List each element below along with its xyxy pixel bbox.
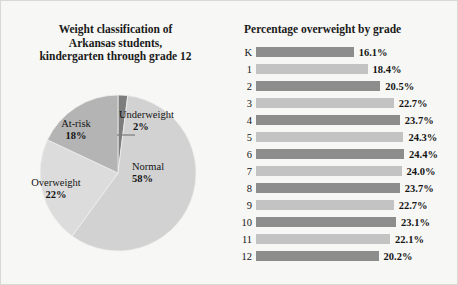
bar-fill bbox=[256, 234, 390, 244]
bar-fill bbox=[256, 166, 402, 176]
pie-chart-panel: Weight classification of Arkansas studen… bbox=[1, 1, 230, 285]
pie-label-underweight-name: Underweight bbox=[119, 109, 174, 121]
bar-fill bbox=[256, 200, 394, 210]
bar-value-label: 24.3% bbox=[408, 131, 437, 144]
bar-category-label: 5 bbox=[230, 131, 252, 144]
bar-row: 1023.1% bbox=[230, 215, 458, 231]
bar-value-label: 23.1% bbox=[401, 216, 430, 229]
bar-chart-panel: Percentage overweight by grade K16.1%118… bbox=[230, 1, 458, 285]
bar-category-label: 6 bbox=[230, 148, 252, 161]
bar-value-label: 16.1% bbox=[359, 46, 388, 59]
pie-label-atrisk-name: At-risk bbox=[52, 118, 100, 130]
bar-fill bbox=[256, 81, 380, 91]
bar-chart-rows: K16.1%118.4%220.5%322.7%423.7%524.3%624.… bbox=[230, 45, 458, 266]
bar-row: 1122.1% bbox=[230, 232, 458, 248]
bar-row: 118.4% bbox=[230, 62, 458, 78]
bar-category-label: 8 bbox=[230, 182, 252, 195]
bar-category-label: K bbox=[230, 46, 252, 59]
bar-category-label: 4 bbox=[230, 114, 252, 127]
bar-value-label: 18.4% bbox=[373, 63, 402, 76]
pie-label-atrisk: At-risk 18% bbox=[52, 118, 100, 141]
pie-chart-graphic bbox=[1, 1, 230, 285]
bar-fill bbox=[256, 149, 404, 159]
bar-fill bbox=[256, 64, 368, 74]
bar-value-label: 20.2% bbox=[384, 250, 413, 263]
bar-value-label: 23.7% bbox=[405, 114, 434, 127]
bar-row: 922.7% bbox=[230, 198, 458, 214]
bar-fill bbox=[256, 183, 400, 193]
bar-value-label: 23.7% bbox=[405, 182, 434, 195]
pie-label-overweight: Overweight 22% bbox=[23, 177, 89, 200]
pie-label-normal: Normal 58% bbox=[132, 161, 164, 184]
pie-label-underweight-value: 2% bbox=[133, 121, 174, 133]
bar-row: 1220.2% bbox=[230, 249, 458, 265]
bar-value-label: 20.5% bbox=[385, 80, 414, 93]
pie-label-overweight-value: 22% bbox=[23, 189, 89, 201]
bar-category-label: 12 bbox=[230, 250, 252, 263]
pie-label-normal-name: Normal bbox=[132, 161, 164, 173]
bar-fill bbox=[256, 115, 400, 125]
bar-row: 220.5% bbox=[230, 79, 458, 95]
bar-fill bbox=[256, 98, 394, 108]
bar-category-label: 3 bbox=[230, 97, 252, 110]
bar-fill bbox=[256, 251, 379, 261]
bar-category-label: 10 bbox=[230, 216, 252, 229]
chart-figure: Weight classification of Arkansas studen… bbox=[0, 0, 458, 285]
bar-row: 322.7% bbox=[230, 96, 458, 112]
bar-category-label: 7 bbox=[230, 165, 252, 178]
bar-chart-title: Percentage overweight by grade bbox=[244, 23, 401, 35]
bar-value-label: 24.4% bbox=[409, 148, 438, 161]
bar-value-label: 24.0% bbox=[407, 165, 436, 178]
bar-row: 524.3% bbox=[230, 130, 458, 146]
bar-category-label: 2 bbox=[230, 80, 252, 93]
bar-row: 423.7% bbox=[230, 113, 458, 129]
pie-label-normal-value: 58% bbox=[132, 173, 164, 185]
bar-row: 823.7% bbox=[230, 181, 458, 197]
bar-category-label: 9 bbox=[230, 199, 252, 212]
bar-fill bbox=[256, 217, 396, 227]
bar-fill bbox=[256, 47, 354, 57]
pie-label-overweight-name: Overweight bbox=[23, 177, 89, 189]
bar-row: K16.1% bbox=[230, 45, 458, 61]
bar-value-label: 22.7% bbox=[399, 199, 428, 212]
bar-value-label: 22.7% bbox=[399, 97, 428, 110]
bar-value-label: 22.1% bbox=[395, 233, 424, 246]
pie-label-atrisk-value: 18% bbox=[52, 130, 100, 142]
bar-fill bbox=[256, 132, 403, 142]
bar-category-label: 11 bbox=[230, 233, 252, 246]
pie-label-underweight: Underweight 2% bbox=[119, 109, 174, 132]
bar-row: 624.4% bbox=[230, 147, 458, 163]
bar-row: 724.0% bbox=[230, 164, 458, 180]
bar-category-label: 1 bbox=[230, 63, 252, 76]
